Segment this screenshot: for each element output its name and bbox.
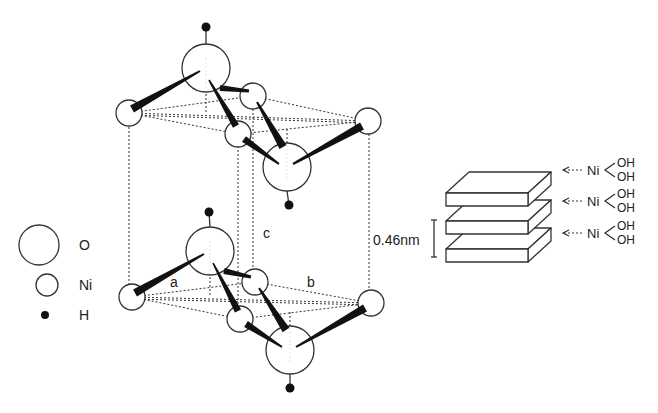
legend-nickel-label: Ni [79, 277, 92, 293]
branch-bond-icon [605, 226, 615, 240]
oxygen-atom [186, 227, 234, 275]
ni-o-bond [256, 101, 286, 149]
hydrogen-atom [205, 208, 214, 217]
slab-front-face [446, 221, 528, 234]
ligand-top-label: OH [617, 219, 635, 233]
nickel-atom [242, 269, 268, 295]
ligand-top-label: OH [617, 187, 635, 201]
metal-label: Ni [587, 226, 599, 241]
legend: ONiH [19, 225, 92, 323]
branch-bond-icon [605, 163, 615, 177]
ligand-top-label: OH [617, 156, 635, 170]
plane-dashed-line [132, 297, 371, 303]
oxygen-atom [182, 44, 230, 92]
ni-o-bond [130, 70, 200, 112]
ni-o-bond [133, 253, 204, 296]
layer-label-2: NiOHOH [563, 187, 635, 215]
hydrogen-atom [202, 23, 211, 32]
metal-label: Ni [587, 194, 599, 209]
hydrogen-atom [286, 384, 295, 393]
ni-oh2-structure-figure: ONiH abc 0.46nmNiOHOHNiOHOHNiOHOH [0, 0, 658, 413]
slab-front-face [446, 193, 528, 206]
interlayer-spacing-label: 0.46nm [373, 232, 420, 248]
ni-o-bond [258, 287, 289, 332]
oxygen-atom [266, 326, 314, 374]
legend-hydrogen-symbol-icon [41, 311, 49, 319]
nickel-atom [240, 83, 266, 109]
plane-dashed-line [132, 297, 240, 319]
legend-oxygen-label: O [79, 237, 90, 253]
legend-hydrogen-label: H [79, 307, 89, 323]
slab-front-face [446, 249, 528, 262]
diagram-svg: ONiH abc 0.46nmNiOHOHNiOHOHNiOHOH [0, 0, 658, 413]
legend-oxygen-symbol-icon [19, 225, 59, 265]
metal-label: Ni [587, 163, 599, 178]
axis-label-a: a [170, 274, 178, 290]
legend-nickel-symbol-icon [36, 274, 58, 296]
oxygen-atom [263, 143, 311, 191]
axis-label-c: c [263, 225, 270, 241]
layer-label-3: NiOHOH [563, 219, 635, 247]
bonds [130, 70, 367, 348]
atoms [116, 23, 384, 393]
ligand-bottom-label: OH [617, 201, 635, 215]
hydrogen-atom [285, 201, 294, 210]
layer-label-1: NiOHOH [563, 156, 635, 184]
ni-o-bond [293, 122, 364, 164]
ni-o-bond [296, 305, 367, 348]
layer-stack [446, 172, 551, 262]
axis-label-b: b [307, 274, 315, 290]
branch-bond-icon [605, 194, 615, 208]
ligand-bottom-label: OH [617, 170, 635, 184]
plane-dashed-line [129, 115, 368, 123]
ligand-bottom-label: OH [617, 233, 635, 247]
